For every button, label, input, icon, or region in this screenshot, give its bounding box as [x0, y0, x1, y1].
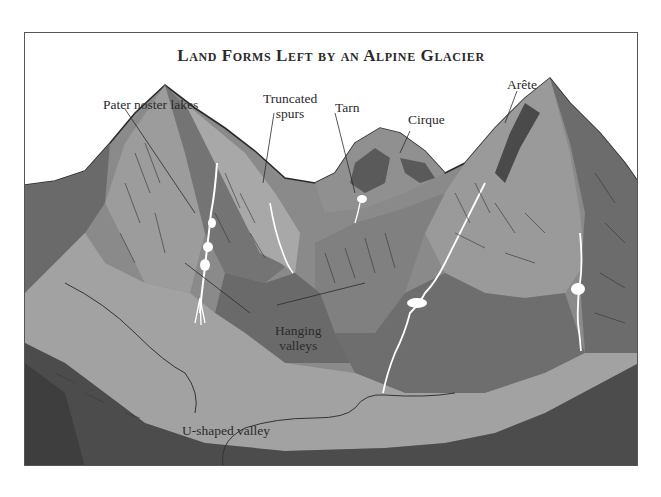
- diagram-frame: Land Forms Left by an Alpine Glacier Pat…: [24, 32, 638, 466]
- label-truncated-spurs-line1: Truncated: [263, 91, 317, 106]
- label-hanging-valleys-line2: valleys: [275, 338, 322, 353]
- label-pater-noster-lakes: Pater noster lakes: [103, 97, 198, 112]
- label-truncated-spurs: Truncated spurs: [263, 91, 317, 121]
- label-hanging-valleys: Hanging valleys: [275, 323, 322, 353]
- tarn-lake: [357, 195, 367, 203]
- diagram-title: Land Forms Left by an Alpine Glacier: [25, 46, 637, 66]
- label-hanging-valleys-line1: Hanging: [275, 323, 322, 338]
- label-arete: Arête: [507, 77, 537, 92]
- pater-noster-lake-2: [203, 242, 213, 252]
- arete-lake: [571, 283, 585, 295]
- pater-noster-lake-3: [200, 259, 210, 271]
- label-cirque: Cirque: [408, 112, 445, 127]
- hanging-valley-lake: [407, 298, 427, 308]
- label-tarn: Tarn: [335, 100, 360, 115]
- label-truncated-spurs-line2: spurs: [263, 106, 317, 121]
- label-u-shaped-valley: U-shaped valley: [182, 423, 270, 438]
- pater-noster-lake-1: [208, 218, 216, 228]
